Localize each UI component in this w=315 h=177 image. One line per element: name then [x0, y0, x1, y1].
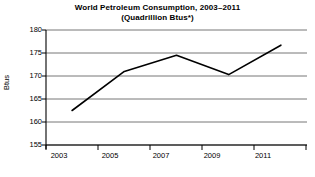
- data-series-line: [72, 45, 281, 110]
- y-axis: [42, 30, 46, 149]
- chart-figure: World Petroleum Consumption, 2003–2011 (…: [0, 0, 315, 177]
- x-axis: [46, 145, 307, 150]
- gridlines: [46, 30, 307, 145]
- plot-area: [0, 0, 315, 177]
